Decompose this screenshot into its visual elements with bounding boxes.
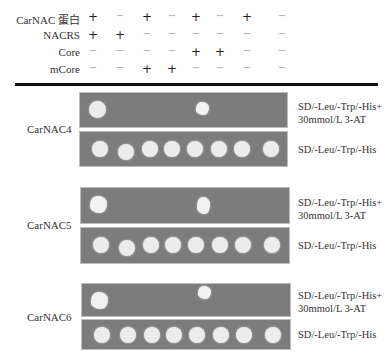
- minus-sign: −: [140, 28, 154, 39]
- yeast-colony: [89, 101, 106, 118]
- panel-label-carnac6: CarNAC6: [27, 311, 72, 323]
- minus-sign: −: [240, 45, 254, 56]
- yeast-colony: [164, 141, 180, 157]
- yeast-colony: [235, 237, 251, 253]
- minus-sign: −: [240, 28, 254, 39]
- minus-sign: −: [275, 10, 289, 21]
- control-plate-carnac6: [81, 319, 291, 350]
- plus-sign: +: [140, 62, 154, 76]
- yeast-colony: [165, 237, 181, 253]
- panel-label-carnac4: CarNAC4: [27, 123, 72, 135]
- yeast-colony: [213, 327, 229, 343]
- plus-sign: +: [140, 10, 154, 24]
- yeast-colony: [196, 102, 209, 115]
- header-label-nacrs: NACRS: [0, 29, 80, 41]
- header-label-core: Core: [0, 46, 80, 58]
- minus-sign: −: [113, 45, 127, 56]
- yeast-colony: [264, 237, 280, 253]
- condition-line2: 30mmol/L 3-AT: [298, 114, 366, 125]
- yeast-colony: [94, 327, 110, 343]
- minus-sign: −: [113, 10, 127, 21]
- control-condition-label: SD/-Leu/-Trp/-His: [298, 328, 376, 341]
- selective-condition-label: SD/-Leu/-Trp/-His+30mmol/L 3-AT: [298, 289, 382, 315]
- minus-sign: −: [86, 45, 100, 56]
- header-label-mcore: mCore: [0, 63, 80, 75]
- yeast-colony: [92, 141, 108, 157]
- condition-line1: SD/-Leu/-Trp/-His+: [298, 197, 382, 208]
- control-plate-carnac4: [79, 131, 288, 167]
- plus-sign: +: [165, 62, 179, 76]
- plus-sign: +: [86, 10, 100, 24]
- minus-sign: −: [189, 28, 203, 39]
- yeast-colony: [90, 196, 107, 213]
- yeast-colony: [189, 327, 205, 343]
- plus-sign: +: [213, 45, 227, 59]
- selective-condition-label: SD/-Leu/-Trp/-His+30mmol/L 3-AT: [298, 196, 382, 222]
- minus-sign: −: [189, 62, 203, 73]
- minus-sign: −: [140, 45, 154, 56]
- control-condition-label: SD/-Leu/-Trp/-His: [298, 239, 376, 252]
- control-plate-carnac5: [80, 227, 290, 264]
- minus-sign: −: [113, 62, 127, 73]
- minus-sign: −: [86, 62, 100, 73]
- yeast-colony: [143, 237, 159, 253]
- plus-sign: +: [240, 10, 254, 24]
- header-divider: [15, 83, 378, 86]
- yeast-colony: [118, 144, 134, 160]
- yeast-colony: [119, 240, 135, 256]
- minus-sign: −: [213, 28, 227, 39]
- condition-line1: SD/-Leu/-Trp/-His+: [298, 290, 382, 301]
- condition-line2: 30mmol/L 3-AT: [298, 210, 366, 221]
- panel-label-carnac5: CarNAC5: [27, 219, 72, 231]
- yeast-colony: [234, 141, 250, 157]
- yeast-colony: [144, 327, 160, 343]
- yeast-colony: [120, 327, 136, 343]
- yeast-colony: [166, 327, 182, 343]
- plus-sign: +: [189, 10, 203, 24]
- plus-sign: +: [189, 45, 203, 59]
- yeast-colony: [142, 141, 158, 157]
- yeast-colony: [198, 286, 211, 299]
- selective-condition-label: SD/-Leu/-Trp/-His+30mmol/L 3-AT: [298, 100, 382, 126]
- control-condition-label: SD/-Leu/-Trp/-His: [298, 143, 376, 156]
- minus-sign: −: [275, 45, 289, 56]
- yeast-colony: [188, 237, 204, 253]
- yeast-colony: [265, 327, 281, 343]
- yeast-colony: [91, 292, 108, 309]
- yeast-colony: [187, 141, 203, 157]
- minus-sign: −: [275, 62, 289, 73]
- condition-line2: 30mmol/L 3-AT: [298, 303, 366, 314]
- condition-line1: SD/-Leu/-Trp/-His+: [298, 101, 382, 112]
- selective-plate-carnac4: [79, 92, 288, 128]
- yeast-colony: [212, 237, 228, 253]
- minus-sign: −: [165, 28, 179, 39]
- minus-sign: −: [275, 28, 289, 39]
- plus-sign: +: [113, 28, 127, 42]
- header-label-carnac-protein: CarNAC 蛋白: [0, 11, 80, 27]
- minus-sign: −: [165, 45, 179, 56]
- yeast-colony: [263, 141, 279, 157]
- selective-plate-carnac6: [81, 283, 291, 317]
- minus-sign: −: [165, 10, 179, 21]
- plus-sign: +: [86, 28, 100, 42]
- yeast-colony: [236, 327, 252, 343]
- yeast-colony: [93, 237, 109, 253]
- minus-sign: −: [213, 62, 227, 73]
- yeast-colony: [211, 141, 227, 157]
- minus-sign: −: [240, 62, 254, 73]
- minus-sign: −: [213, 10, 227, 21]
- selective-plate-carnac5: [80, 187, 290, 224]
- yeast-colony: [197, 197, 210, 214]
